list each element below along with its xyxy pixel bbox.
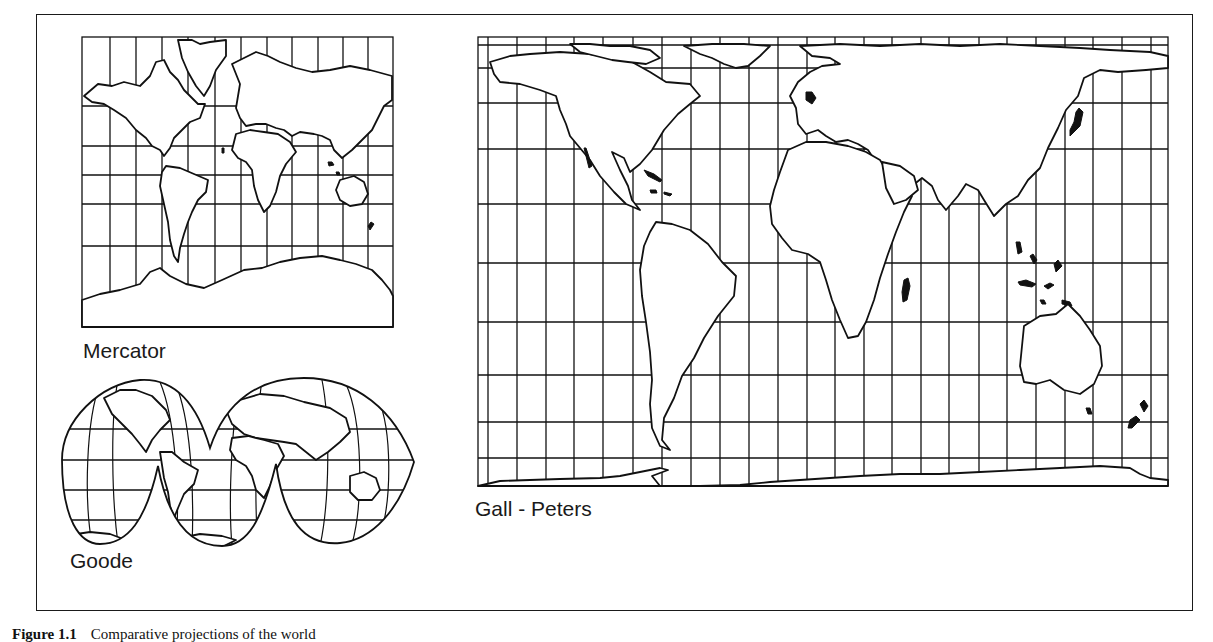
figure-caption-label: Figure 1.1 xyxy=(12,626,77,642)
figure-caption-text: Comparative projections of the world xyxy=(91,626,316,642)
figure-caption: Figure 1.1Comparative projections of the… xyxy=(12,627,316,642)
gall-peters-label: Gall - Peters xyxy=(475,498,592,519)
